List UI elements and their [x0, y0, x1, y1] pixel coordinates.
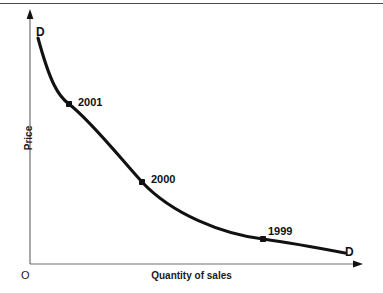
chart-figure: D D 2001 2000 1999 O Price Quantity of s…: [0, 0, 383, 293]
y-axis-title: Price: [23, 108, 34, 168]
data-point-marker-2000[interactable]: [139, 179, 145, 185]
y-axis-arrowhead-icon: [27, 9, 34, 19]
data-point-marker-2001[interactable]: [66, 101, 72, 107]
curve-end-label-d: D: [345, 245, 354, 259]
x-axis-arrowhead-icon: [353, 261, 363, 268]
x-axis-title: Quantity of sales: [0, 270, 383, 281]
demand-curve-path: [38, 38, 345, 253]
data-label-2001: 2001: [78, 96, 102, 108]
demand-curve-plot: [0, 0, 383, 293]
curve-start-label-d: D: [36, 25, 45, 39]
data-point-marker-1999[interactable]: [260, 236, 266, 242]
data-label-2000: 2000: [151, 173, 175, 185]
data-label-1999: 1999: [268, 225, 292, 237]
